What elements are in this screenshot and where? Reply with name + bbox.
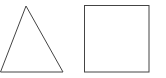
triangle-shape bbox=[1, 6, 64, 72]
shapes-diagram bbox=[0, 0, 166, 78]
square-shape bbox=[85, 6, 150, 73]
